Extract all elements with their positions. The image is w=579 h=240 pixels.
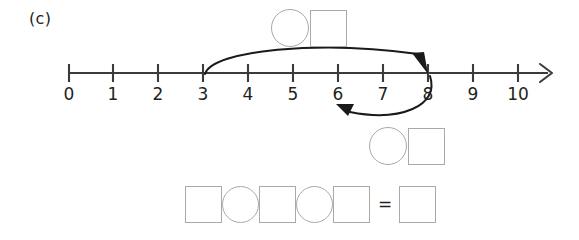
circle-answer-box[interactable] [271,9,309,47]
forward-jump-answer-pair [271,9,347,47]
equation-row: = [185,186,436,223]
number-line-axis [69,64,552,82]
equation-circle-1[interactable] [222,186,259,223]
tick-label-0: 0 [54,84,84,104]
tick-label-3: 3 [188,84,218,104]
equation-result-square[interactable] [399,186,436,223]
forward-jump-arrow [205,48,428,74]
tick-label-8: 8 [413,84,443,104]
equation-square-3[interactable] [333,186,370,223]
equation-square-2[interactable] [259,186,296,223]
equals-sign: = [370,196,399,213]
backward-jump-answer-pair [369,127,445,165]
tick-label-5: 5 [278,84,308,104]
tick-label-9: 9 [458,84,488,104]
forward-jump-arrowhead [412,52,428,74]
tick-label-1: 1 [98,84,128,104]
tick-label-6: 6 [323,84,353,104]
tick-label-2: 2 [143,84,173,104]
tick-label-4: 4 [233,84,263,104]
tick-label-7: 7 [368,84,398,104]
equation-square-1[interactable] [185,186,222,223]
equation-circle-2[interactable] [296,186,333,223]
square-answer-box[interactable] [408,128,445,165]
tick-label-10: 10 [503,84,533,104]
worksheet-panel: (c) [0,0,579,240]
circle-answer-box[interactable] [369,127,407,165]
backward-jump-arrowhead [336,104,354,116]
square-answer-box[interactable] [310,10,347,47]
